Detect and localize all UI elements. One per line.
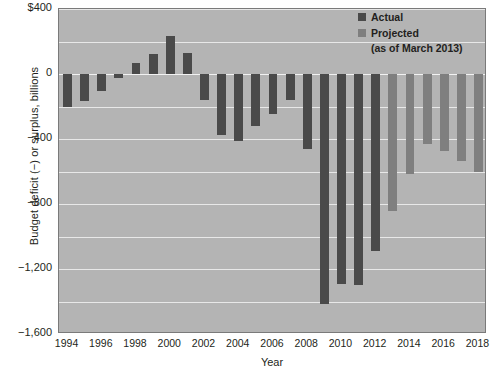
bar-1997 xyxy=(114,74,123,78)
bar-2017 xyxy=(457,74,466,161)
bar-2007 xyxy=(286,74,295,100)
legend-swatch-actual-icon xyxy=(358,13,366,21)
bar-1995 xyxy=(80,74,89,101)
bar-2015 xyxy=(423,74,432,144)
bar-2002 xyxy=(200,74,209,100)
bar-2009 xyxy=(320,74,329,304)
bar-1999 xyxy=(149,54,158,74)
budget-deficit-chart: Budget deficit (−) or surplus, billions … xyxy=(0,0,494,392)
bar-2005 xyxy=(251,74,260,126)
bar-2008 xyxy=(303,74,312,149)
legend-label-actual: Actual xyxy=(371,11,403,25)
bar-1994 xyxy=(63,74,72,107)
bar-2004 xyxy=(234,74,243,141)
bar-2003 xyxy=(217,74,226,135)
gridline xyxy=(59,302,485,303)
y-tick-label: −1,200 xyxy=(0,262,52,273)
gridline xyxy=(59,139,485,140)
y-axis-title: Budget deficit (−) or surplus, billions xyxy=(28,26,40,286)
bar-2001 xyxy=(183,53,192,74)
legend-item-actual: Actual xyxy=(358,11,463,25)
y-tick-label: −1,600 xyxy=(0,327,52,338)
gridline xyxy=(59,204,485,205)
gridline xyxy=(59,269,485,270)
bar-2006 xyxy=(269,74,278,114)
x-tick-label: 2018 xyxy=(457,338,494,349)
bar-2010 xyxy=(337,74,346,284)
plot-area xyxy=(58,8,486,333)
bar-2011 xyxy=(354,74,363,285)
legend-sublabel-projected: (as of March 2013) xyxy=(371,42,463,56)
y-tick-label: −800 xyxy=(0,197,52,208)
gridline xyxy=(59,172,485,173)
bar-2014 xyxy=(406,74,415,174)
legend-label-projected: Projected xyxy=(371,27,419,41)
legend: Actual Projected (as of March 2013) xyxy=(358,11,463,56)
bar-2000 xyxy=(166,36,175,74)
bar-2018 xyxy=(474,74,483,172)
bar-2012 xyxy=(371,74,380,251)
legend-item-projected: Projected xyxy=(358,27,463,41)
bar-2016 xyxy=(440,74,449,151)
bar-1996 xyxy=(97,74,106,91)
bar-2013 xyxy=(388,74,397,211)
gridline xyxy=(59,9,485,10)
gridline xyxy=(59,237,485,238)
legend-swatch-projected-icon xyxy=(358,29,366,37)
y-tick-label: −400 xyxy=(0,132,52,143)
y-tick-label: $400 xyxy=(0,2,52,13)
bar-1998 xyxy=(132,63,141,74)
y-tick-label: 0 xyxy=(0,67,52,78)
x-axis-title: Year xyxy=(58,356,486,368)
